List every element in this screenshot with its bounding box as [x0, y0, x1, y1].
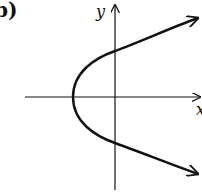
- graph-figure: b) y x: [0, 0, 202, 193]
- x-axis-label: x: [196, 102, 202, 118]
- plot-canvas: [0, 0, 202, 193]
- parabola-lower-branch: [73, 97, 198, 174]
- parabola-upper-branch: [73, 18, 198, 97]
- panel-label: b): [0, 0, 17, 20]
- y-axis-label: y: [96, 4, 105, 20]
